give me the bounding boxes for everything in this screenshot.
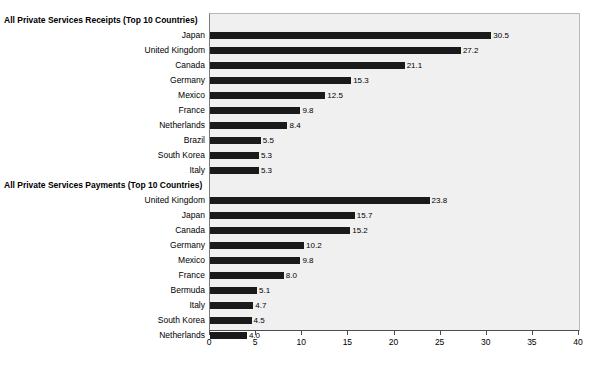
bar-track: 4.7 bbox=[210, 298, 579, 313]
bar-row: United Kingdom27.2 bbox=[0, 43, 596, 58]
category-label: Germany bbox=[170, 74, 205, 86]
x-tick-label: 10 bbox=[297, 337, 306, 348]
bar-row: France9.8 bbox=[0, 103, 596, 118]
category-label: Germany bbox=[170, 239, 205, 251]
bar-row: Mexico12.5 bbox=[0, 88, 596, 103]
x-tick-label: 25 bbox=[435, 337, 444, 348]
bar bbox=[210, 62, 405, 69]
x-tick-mark bbox=[347, 331, 348, 335]
bar-row: South Korea5.3 bbox=[0, 148, 596, 163]
x-tick-label: 35 bbox=[527, 337, 536, 348]
bar-value-label: 5.3 bbox=[259, 165, 272, 176]
bar-value-label: 15.7 bbox=[355, 210, 373, 221]
bar bbox=[210, 152, 259, 159]
category-label: Bermuda bbox=[171, 284, 206, 296]
category-label: Italy bbox=[189, 164, 205, 176]
bar-row: Italy5.3 bbox=[0, 163, 596, 178]
bar-value-label: 5.5 bbox=[261, 135, 274, 146]
x-tick-mark bbox=[301, 331, 302, 335]
category-label: France bbox=[179, 104, 205, 116]
bar bbox=[210, 227, 350, 234]
bar bbox=[210, 302, 253, 309]
bar-row: Germany10.2 bbox=[0, 238, 596, 253]
x-tick-label: 0 bbox=[207, 337, 212, 348]
bar-value-label: 5.1 bbox=[257, 285, 270, 296]
x-tick-label: 5 bbox=[253, 337, 258, 348]
x-tick-label: 20 bbox=[389, 337, 398, 348]
bar-track: 12.5 bbox=[210, 88, 579, 103]
x-tick-label: 30 bbox=[481, 337, 490, 348]
x-tick-mark bbox=[578, 331, 579, 335]
bar-track: 21.1 bbox=[210, 58, 579, 73]
bar-row: South Korea4.5 bbox=[0, 313, 596, 328]
x-axis-ticks: 0510152025303540 bbox=[209, 331, 579, 355]
bar-row: Mexico9.8 bbox=[0, 253, 596, 268]
bar-value-label: 10.2 bbox=[304, 240, 322, 251]
bar bbox=[210, 317, 252, 324]
bar-row: Japan15.7 bbox=[0, 208, 596, 223]
bar-track: 30.5 bbox=[210, 28, 579, 43]
bar bbox=[210, 47, 461, 54]
bar-row: Bermuda5.1 bbox=[0, 283, 596, 298]
bar-track: 15.3 bbox=[210, 73, 579, 88]
category-label: Canada bbox=[175, 59, 205, 71]
bar-track: 9.8 bbox=[210, 103, 579, 118]
bar bbox=[210, 92, 325, 99]
bar-track: 5.3 bbox=[210, 163, 579, 178]
bar-row: Canada21.1 bbox=[0, 58, 596, 73]
bar-value-label: 9.8 bbox=[300, 105, 313, 116]
bar-value-label: 23.8 bbox=[430, 195, 448, 206]
bar bbox=[210, 77, 351, 84]
bar-row: Japan30.5 bbox=[0, 28, 596, 43]
category-label: South Korea bbox=[158, 314, 205, 326]
category-label: Canada bbox=[175, 224, 205, 236]
bar bbox=[210, 167, 259, 174]
chart-figure: All Private Services Receipts (Top 10 Co… bbox=[0, 0, 596, 365]
bar-row: Brazil5.5 bbox=[0, 133, 596, 148]
bar-value-label: 8.4 bbox=[287, 120, 300, 131]
category-label: Mexico bbox=[178, 89, 205, 101]
x-tick-mark bbox=[486, 331, 487, 335]
category-label: Japan bbox=[182, 29, 205, 41]
bar bbox=[210, 197, 430, 204]
bar-track: 5.1 bbox=[210, 283, 579, 298]
bar-track: 8.4 bbox=[210, 118, 579, 133]
bar-value-label: 8.0 bbox=[284, 270, 297, 281]
panel-title-row: All Private Services Receipts (Top 10 Co… bbox=[0, 13, 596, 28]
bar-track: 23.8 bbox=[210, 193, 579, 208]
bar-value-label: 9.8 bbox=[300, 255, 313, 266]
panel-title: All Private Services Receipts (Top 10 Co… bbox=[4, 14, 198, 26]
bar-row: France8.0 bbox=[0, 268, 596, 283]
bar-value-label: 15.2 bbox=[350, 225, 368, 236]
bar-value-label: 12.5 bbox=[325, 90, 343, 101]
bar bbox=[210, 272, 284, 279]
bar-track: 9.8 bbox=[210, 253, 579, 268]
category-label: Japan bbox=[182, 209, 205, 221]
x-tick-mark bbox=[209, 331, 210, 335]
panel-title-row: All Private Services Payments (Top 10 Co… bbox=[0, 178, 596, 193]
bar bbox=[210, 32, 491, 39]
panel-title: All Private Services Payments (Top 10 Co… bbox=[4, 179, 202, 191]
bar bbox=[210, 287, 257, 294]
bar-value-label: 27.2 bbox=[461, 45, 479, 56]
x-tick-mark bbox=[394, 331, 395, 335]
category-label: United Kingdom bbox=[145, 44, 205, 56]
bar-track: 5.5 bbox=[210, 133, 579, 148]
category-label: South Korea bbox=[158, 149, 205, 161]
category-label: Netherlands bbox=[159, 329, 205, 341]
bar-track: 4.5 bbox=[210, 313, 579, 328]
bar-value-label: 21.1 bbox=[405, 60, 423, 71]
bar bbox=[210, 257, 300, 264]
bar-track: 5.3 bbox=[210, 148, 579, 163]
bar-row: Canada15.2 bbox=[0, 223, 596, 238]
bar-track: 15.2 bbox=[210, 223, 579, 238]
chart-rows: All Private Services Receipts (Top 10 Co… bbox=[0, 13, 596, 343]
bar-row: Germany15.3 bbox=[0, 73, 596, 88]
category-label: Brazil bbox=[184, 134, 205, 146]
bar-value-label: 5.3 bbox=[259, 150, 272, 161]
bar-value-label: 15.3 bbox=[351, 75, 369, 86]
x-tick-label: 15 bbox=[343, 337, 352, 348]
bar bbox=[210, 242, 304, 249]
bar bbox=[210, 212, 355, 219]
bar-track: 8.0 bbox=[210, 268, 579, 283]
